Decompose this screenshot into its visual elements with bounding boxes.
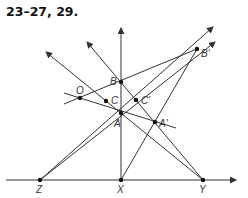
- point-z: [38, 178, 42, 182]
- point-o: [78, 96, 82, 100]
- point-a-prime: [153, 120, 157, 124]
- point-a: [119, 111, 123, 115]
- line-y-b: [87, 42, 203, 180]
- label-x: X: [116, 184, 124, 195]
- label-c: C: [111, 95, 119, 106]
- label-b: B: [110, 76, 117, 87]
- label-o: O: [76, 85, 84, 96]
- point-b: [119, 80, 123, 84]
- point-x: [119, 178, 123, 182]
- projective-diagram: O A B C A′ B′ C′ X Y Z: [0, 0, 248, 198]
- label-c-prime: C′: [141, 95, 151, 106]
- label-z: Z: [35, 184, 43, 195]
- line-o-c: [64, 49, 197, 104]
- label-y: Y: [199, 184, 207, 195]
- point-b-prime: [195, 47, 199, 51]
- line-y-a: [46, 52, 203, 180]
- point-c: [104, 99, 108, 103]
- point-c-prime: [134, 98, 138, 102]
- label-a: A: [113, 118, 121, 129]
- label-a-prime: A′: [158, 118, 169, 129]
- label-b-prime: B′: [201, 48, 211, 59]
- point-y: [201, 178, 205, 182]
